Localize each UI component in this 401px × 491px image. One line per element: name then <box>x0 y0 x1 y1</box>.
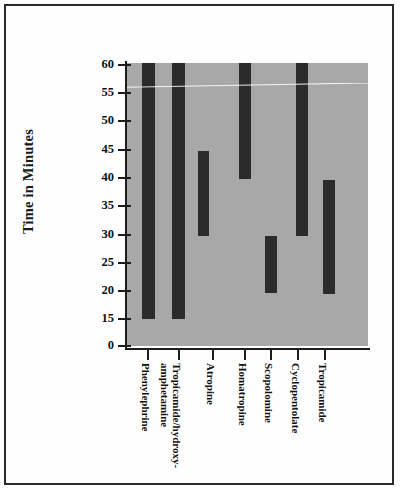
y-tick-label-55: 55 <box>90 86 114 99</box>
y-tick-label-30: 30 <box>90 228 114 241</box>
y-tick-label-15: 15 <box>90 312 114 325</box>
x-tick-scopolomine <box>270 349 272 360</box>
x-tick-cyclopentolate <box>297 349 299 360</box>
bar-atropine <box>198 151 209 236</box>
y-tick-20 <box>118 290 131 292</box>
bar-tropicamide-hydroxy-amphetamine <box>172 63 185 319</box>
y-tick-0 <box>118 345 131 347</box>
y-tick-label-35: 35 <box>90 199 114 212</box>
x-axis-line <box>125 348 370 350</box>
y-tick-label-20: 20 <box>90 284 114 297</box>
plot-area <box>126 63 368 346</box>
x-tick-tropicamide-hydroxy-amphetamine <box>178 349 180 360</box>
bar-cyclopentolate <box>296 63 308 236</box>
x-tick-homatropine <box>244 349 246 360</box>
x-tick-label-tropicamide: Tropicamide <box>315 363 329 422</box>
bar-homatropine <box>239 63 251 179</box>
bar-phenylephrine <box>142 63 155 319</box>
y-tick-25 <box>118 262 131 264</box>
y-tick-15 <box>118 318 131 320</box>
y-tick-label-25: 25 <box>90 256 114 269</box>
y-axis-title-label: Time in Minutes <box>21 128 38 233</box>
x-tick-label-phenylephrine: Phenylephrine <box>138 363 152 431</box>
y-tick-50 <box>118 120 131 122</box>
figure-frame: Time in Minutes 605550454035302520150 Ph… <box>4 4 394 485</box>
y-tick-55 <box>118 92 131 94</box>
bar-scopolomine <box>265 236 277 293</box>
y-tick-60 <box>118 64 131 66</box>
y-axis-title: Time in Minutes <box>14 96 44 266</box>
x-tick-label-homatropine: Homatropine <box>235 363 249 426</box>
bar-tropicamide <box>323 180 335 294</box>
x-tick-label-cyclopentolate: Cyclopentolate <box>288 363 302 433</box>
y-tick-40 <box>118 177 131 179</box>
x-tick-label-scopolomine: Scopolomine <box>261 363 275 423</box>
x-tick-label-atropine: Atropine <box>203 363 217 405</box>
y-tick-label-50: 50 <box>90 114 114 127</box>
x-tick-label-tropicamide-hydroxy-amphetamine: Tropicamide/hydroxy-amphetamine <box>169 363 183 468</box>
y-tick-label-40: 40 <box>90 171 114 184</box>
y-tick-label-60: 60 <box>90 58 114 71</box>
x-tick-phenylephrine <box>147 349 149 360</box>
y-tick-30 <box>118 234 131 236</box>
y-tick-label-45: 45 <box>90 143 114 156</box>
y-tick-45 <box>118 149 131 151</box>
y-tick-label-0: 0 <box>90 339 114 352</box>
x-tick-atropine <box>212 349 214 360</box>
x-tick-tropicamide <box>324 349 326 360</box>
y-tick-35 <box>118 205 131 207</box>
